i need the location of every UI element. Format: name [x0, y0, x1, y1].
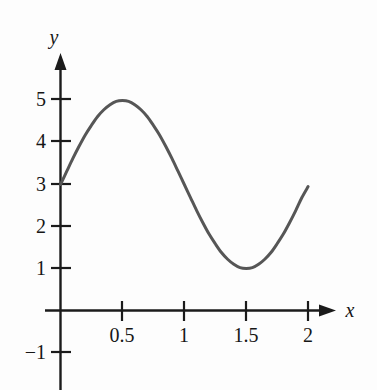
- x-tick-label-2: 2: [303, 324, 313, 346]
- data-curve-line: [61, 101, 309, 269]
- x-axis-label: x: [345, 299, 355, 321]
- chart-figure: y x 5 4 3 2 1 −1 0.5 1: [0, 0, 377, 390]
- y-axis-arrow-icon: [55, 53, 67, 70]
- x-axis-arrow-icon: [319, 305, 336, 317]
- y-tick-label-2: 2: [36, 215, 46, 237]
- x-tick-label-1-5: 1.5: [234, 324, 259, 346]
- y-tick-label-3: 3: [36, 173, 46, 195]
- plot-canvas: y x 5 4 3 2 1 −1 0.5 1: [0, 0, 377, 390]
- x-tick-label-1: 1: [179, 324, 189, 346]
- y-tick-label-1: 1: [36, 257, 46, 279]
- y-tick-label-5: 5: [36, 88, 46, 110]
- y-tick-label-4: 4: [36, 130, 46, 152]
- y-axis-label: y: [48, 26, 59, 49]
- x-tick-label-0-5: 0.5: [110, 324, 135, 346]
- y-tick-label-minus-1: −1: [25, 341, 46, 363]
- y-axis-group: y: [48, 26, 67, 390]
- x-tick-group: 0.5 1 1.5 2: [110, 301, 314, 346]
- y-tick-group: 5 4 3 2 1 −1: [25, 88, 71, 363]
